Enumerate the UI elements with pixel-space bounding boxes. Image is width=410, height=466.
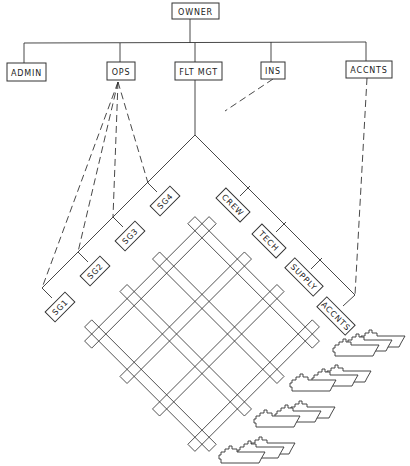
fleet: [219, 330, 405, 463]
accnts-function-label: ACCNTS: [319, 300, 352, 333]
accnts-label: ACCNTS: [350, 66, 387, 75]
ship-group-4: [219, 437, 295, 463]
flt-mgt-box: FLT MGT: [175, 62, 222, 80]
sg2-box: SG2: [80, 256, 110, 286]
owner-label: OWNER: [178, 8, 213, 17]
sg3-box: SG3: [115, 221, 145, 251]
org-matrix-diagram: OWNER ADMIN OPS FLT MGT INS ACCNTS SG1 S…: [0, 0, 410, 466]
accnts-box: ACCNTS: [346, 61, 392, 78]
ship-group-3: [254, 401, 335, 427]
supply-box: SUPPLY: [285, 258, 323, 296]
admin-box: ADMIN: [7, 63, 46, 81]
hierarchy-lines: [24, 19, 366, 295]
tech-box: TECH: [252, 224, 286, 258]
ship-group-2: [290, 365, 371, 391]
ops-label: OPS: [112, 68, 131, 77]
crew-box: CREW: [216, 188, 250, 222]
ops-box: OPS: [107, 62, 135, 80]
accnts-function-box: ACCNTS: [317, 297, 355, 335]
dashed-relations: [42, 78, 367, 295]
ins-label: INS: [265, 67, 281, 76]
sg1-box: SG1: [45, 292, 75, 322]
sg4-box: SG4: [150, 186, 180, 216]
flt-mgt-label: FLT MGT: [179, 68, 218, 77]
owner-box: OWNER: [172, 3, 219, 19]
admin-label: ADMIN: [11, 69, 42, 78]
ins-box: INS: [261, 62, 285, 79]
